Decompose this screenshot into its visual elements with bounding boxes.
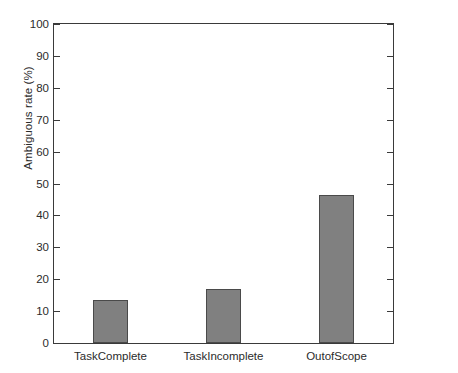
y-tick-label: 40 (36, 209, 49, 221)
y-tick-label: 50 (36, 178, 49, 190)
y-tick-label: 80 (36, 82, 49, 94)
x-tick-label: OutofScope (306, 350, 367, 362)
y-tick-label: 20 (36, 273, 49, 285)
bar (93, 300, 128, 343)
y-tick-mark-right (387, 343, 393, 344)
y-tick-mark (54, 343, 60, 344)
x-tick-label: TaskComplete (74, 350, 147, 362)
y-tick-label: 30 (36, 241, 49, 253)
plot-area: 0102030405060708090100 TaskCompleteTaskI… (53, 23, 394, 344)
bar (319, 195, 354, 343)
bar (206, 289, 241, 343)
y-tick-label: 90 (36, 50, 49, 62)
bar-chart-figure: Ambiguous rate (%) 010203040506070809010… (0, 0, 458, 373)
y-tick-label: 100 (30, 18, 49, 30)
bars-layer (54, 24, 393, 343)
y-axis-title: Ambiguous rate (%) (22, 28, 34, 208)
y-tick-label: 10 (36, 305, 49, 317)
y-tick-label: 60 (36, 146, 49, 158)
y-tick-label: 70 (36, 114, 49, 126)
x-tick-label: TaskIncomplete (184, 350, 264, 362)
y-tick-label: 0 (43, 337, 49, 349)
